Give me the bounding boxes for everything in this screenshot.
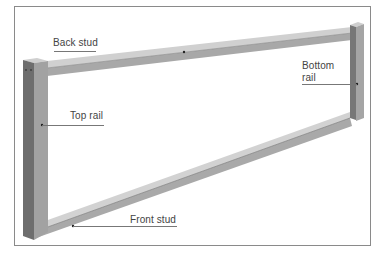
leader-top-rail — [42, 125, 104, 126]
back-stud-marker — [183, 51, 185, 53]
leader-bottom-rail — [302, 84, 357, 85]
leader-front-stud — [73, 226, 177, 227]
bottom-rail-beam — [36, 112, 352, 238]
label-front-stud: Front stud — [130, 214, 176, 226]
label-top-rail: Top rail — [70, 110, 103, 122]
left-post — [23, 58, 48, 240]
label-bottom-rail-2: rail — [302, 72, 316, 84]
label-bottom-rail-1: Bottom — [302, 60, 334, 72]
right-post — [350, 22, 364, 121]
label-back-stud: Back stud — [53, 37, 98, 49]
leader-back-stud — [54, 51, 96, 52]
